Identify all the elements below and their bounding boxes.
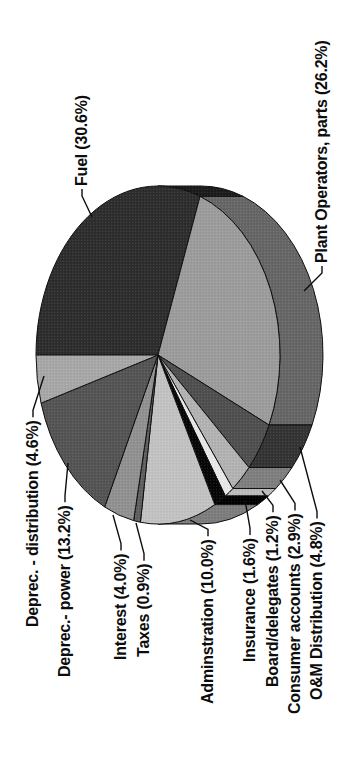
pie-chart: Fuel (30.6%)Plant Operators, parts (26.2… [0,0,352,784]
slice-label: Taxes (0.9%) [135,564,152,657]
slice-label: Interest (4.0%) [112,554,129,660]
slice-label: Deprec.- power (13.2%) [56,505,73,677]
slice-label: Board/delegates (1.2%) [264,515,281,687]
slice-label: Deprec. - distribution (4.6%) [24,420,41,627]
slice-label: Adminstration (10.0%) [199,539,216,704]
slice-label: Consumer accounts (2.9%) [286,513,303,714]
rotated-pie-chart-figure: Fuel (30.6%)Plant Operators, parts (26.2… [0,0,352,784]
slice-label: O&M Distribution (4.8%) [308,521,325,700]
halftone-overlay-face [36,186,280,524]
slice-label: Fuel (30.6%) [73,95,90,186]
slice-label: Plant Operators, parts (26.2%) [313,40,330,263]
slice-label: Insurance (1.6%) [241,538,258,662]
